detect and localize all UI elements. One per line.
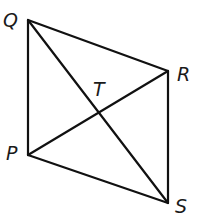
label-t: T: [93, 78, 106, 100]
diagonals: [28, 20, 168, 203]
diagonal-qs: [28, 20, 168, 203]
side-sp: [28, 155, 168, 203]
label-p: P: [6, 142, 18, 164]
label-r: R: [177, 63, 190, 85]
label-q: Q: [3, 9, 18, 31]
label-s: S: [175, 195, 187, 217]
side-qr: [28, 20, 168, 71]
quadrilateral-diagram: Q R S P T: [0, 0, 199, 222]
